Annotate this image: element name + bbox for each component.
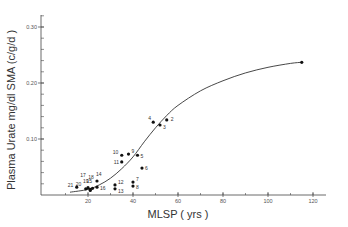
data-point-label: 16 — [100, 185, 106, 191]
data-point — [131, 184, 134, 187]
data-point — [158, 123, 161, 126]
data-point-label: 6 — [145, 165, 148, 171]
x-tick-label: 40 — [130, 198, 136, 204]
data-point — [113, 183, 116, 186]
data-point-label: 4 — [148, 115, 151, 121]
x-tick-label: 120 — [308, 198, 317, 204]
scatter-chart: 0.100.200.3020406080100120 2345678910111… — [0, 0, 348, 227]
x-axis-title: MLSP ( yrs ) — [148, 208, 209, 220]
data-point-label: 21 — [68, 182, 74, 188]
data-points: 23456789101112131415161718192021 — [68, 61, 304, 194]
data-point — [127, 153, 130, 156]
data-point — [136, 154, 139, 157]
data-point — [152, 121, 155, 124]
data-point — [75, 186, 78, 189]
x-tick-label: 100 — [263, 198, 272, 204]
data-point — [120, 154, 123, 157]
axes — [41, 15, 326, 195]
data-point — [140, 167, 143, 170]
data-point-label: 7 — [136, 176, 139, 182]
data-point-label: 12 — [118, 179, 124, 185]
x-tick-label: 80 — [220, 198, 226, 204]
data-point — [84, 187, 87, 190]
data-point-label: 9 — [132, 148, 135, 154]
data-point-label: 14 — [96, 171, 102, 177]
data-point-label: 19 — [83, 178, 89, 184]
data-point — [131, 181, 134, 184]
data-point — [95, 186, 98, 189]
data-point-label: 11 — [114, 159, 119, 165]
data-point-label: 13 — [118, 188, 124, 194]
data-point-label: 3 — [163, 124, 166, 130]
data-point-label: 5 — [141, 153, 144, 159]
data-point — [113, 187, 116, 190]
data-point — [95, 179, 98, 182]
data-point-label: 18 — [88, 174, 94, 180]
data-point — [300, 61, 303, 64]
x-tick-label: 20 — [85, 198, 91, 204]
x-tick-label: 60 — [175, 198, 181, 204]
fit-curve — [70, 62, 302, 192]
data-point-label: 2 — [171, 116, 174, 122]
data-point-label: 10 — [113, 149, 119, 155]
data-point — [89, 189, 92, 192]
y-tick-label: 0.30 — [26, 24, 37, 30]
data-point-label: 8 — [136, 184, 139, 190]
data-point — [165, 118, 168, 121]
data-point — [120, 160, 123, 163]
y-tick-label: 0.20 — [26, 80, 37, 86]
y-tick-label: 0.10 — [26, 136, 37, 142]
y-axis-title: Plasma Urate mg/dl SMA (c/g/d ) — [5, 30, 17, 190]
